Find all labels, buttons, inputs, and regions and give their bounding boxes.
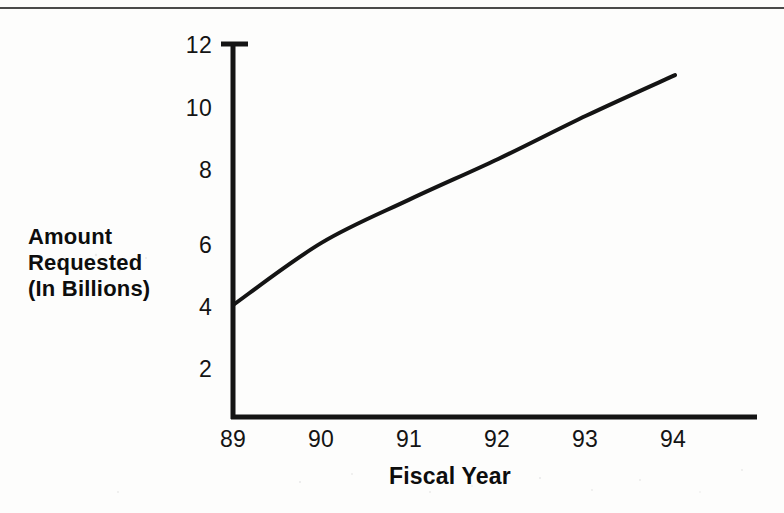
y-tick-label-2: 2 [166, 358, 212, 381]
x-tick-label-92: 92 [467, 428, 527, 451]
y-tick-label-8: 8 [166, 159, 212, 182]
y-axis-title-line-1: Amount [28, 224, 200, 250]
data-line-amount-requested [233, 75, 675, 305]
x-tick-label-90: 90 [291, 428, 351, 451]
x-tick-label-91: 91 [379, 428, 439, 451]
line-chart: 12 10 8 6 4 2 89 90 91 92 93 94 Amount R… [0, 0, 784, 513]
x-tick-label-93: 93 [555, 428, 615, 451]
x-tick-label-94: 94 [643, 428, 703, 451]
chart-page: 12 10 8 6 4 2 89 90 91 92 93 94 Amount R… [0, 0, 784, 513]
y-tick-label-12: 12 [166, 34, 212, 57]
y-axis-title-line-3: (In Billions) [28, 276, 200, 302]
y-tick-label-10: 10 [166, 97, 212, 120]
x-axis-title: Fiscal Year [330, 464, 570, 489]
y-axis-title: Amount Requested (In Billions) [28, 224, 200, 302]
x-tick-label-89: 89 [203, 428, 263, 451]
y-axis-title-line-2: Requested [28, 250, 200, 276]
